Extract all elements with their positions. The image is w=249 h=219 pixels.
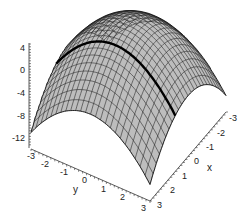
x-tick-label: 0 <box>194 156 199 166</box>
y-axis-label: y <box>73 184 78 195</box>
surface-plot: 4 0 -4 -8 -12 -3 -2 -1 0 1 2 3 y 3 2 1 0… <box>0 0 249 219</box>
x-axis-label: x <box>207 162 212 173</box>
y-tick-label: 0 <box>82 175 87 185</box>
z-tick-label: -8 <box>17 111 25 121</box>
y-tick-label: -1 <box>60 167 68 177</box>
x-tick-label: -2 <box>217 128 225 138</box>
z-axis: 4 0 -4 -8 -12 <box>12 43 31 148</box>
x-tick-label: 2 <box>170 185 175 195</box>
z-tick-label: 0 <box>20 65 25 75</box>
y-tick-label: 2 <box>120 192 125 202</box>
y-tick-label: 1 <box>101 184 106 194</box>
z-tick-label: -4 <box>17 88 25 98</box>
y-tick-label: -3 <box>27 151 35 161</box>
x-tick-label: -3 <box>229 113 237 123</box>
y-axis: -3 -2 -1 0 1 2 3 y <box>27 149 150 213</box>
z-tick-label: -12 <box>12 133 25 143</box>
y-tick-label: -2 <box>41 159 49 169</box>
x-tick-label: 1 <box>182 171 187 181</box>
y-tick-label: 3 <box>141 203 146 213</box>
x-tick-label: -1 <box>206 142 214 152</box>
x-tick-label: 3 <box>157 200 162 210</box>
z-tick-label: 4 <box>20 43 25 53</box>
